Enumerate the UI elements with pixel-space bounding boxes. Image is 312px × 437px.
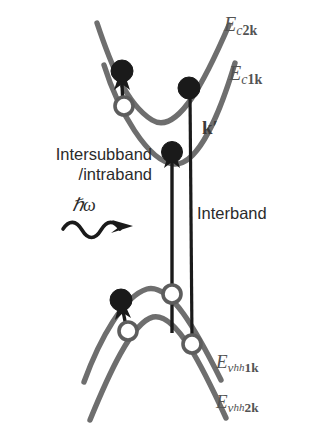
label-conduction-band-ec1k: Ec1k: [229, 63, 262, 87]
label-intersubband-line2: /intraband: [79, 165, 152, 183]
hole-marker: [115, 97, 133, 115]
electron-marker: [111, 60, 133, 82]
label-evhh2k-base: E: [216, 391, 228, 412]
label-evhh1k-k: k: [251, 360, 258, 375]
hole-marker: [163, 285, 181, 303]
band-diagram-figure: Ec2k Ec1k k′ Intersubband/intraband ℏω I…: [0, 0, 312, 437]
label-k-prime: k′: [202, 118, 218, 137]
band-curve-evhh2k: [90, 317, 226, 420]
photon-arrow-head: [111, 220, 133, 233]
label-valence-band-evhh2k: Evhh2k: [216, 392, 259, 414]
electron-marker: [178, 77, 200, 99]
interband-right-line: [190, 92, 192, 341]
label-evhh1k-subsub: hh: [234, 361, 245, 373]
label-interband: Interband: [197, 205, 267, 222]
hole-marker: [183, 335, 201, 353]
photon-squiggle-arrow: [63, 222, 120, 237]
electron-marker: [110, 289, 132, 311]
label-photon-energy: ℏω: [72, 196, 96, 214]
label-intersubband-intraband: Intersubband/intraband: [6, 144, 152, 184]
label-ec1k-base: E: [229, 62, 241, 84]
label-conduction-band-ec2k: Ec2k: [224, 14, 257, 38]
hole-marker: [119, 322, 137, 340]
label-valence-band-evhh1k: Evhh1k: [216, 352, 259, 374]
label-ec2k-k: k: [249, 23, 257, 38]
label-ec1k-k: k: [254, 72, 262, 87]
label-evhh2k-k: k: [251, 400, 258, 415]
electron-marker: [162, 142, 183, 163]
label-evhh2k-subsub: hh: [234, 401, 245, 413]
label-evhh1k-base: E: [216, 351, 228, 372]
label-ec2k-base: E: [224, 13, 236, 35]
label-intersubband-line1: Intersubband: [56, 145, 152, 163]
